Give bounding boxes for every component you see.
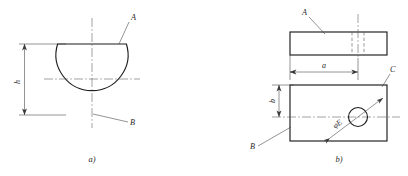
label-b-right: B bbox=[250, 142, 255, 151]
label-b-left: B bbox=[130, 118, 135, 127]
leader-line-a-left bbox=[119, 22, 129, 44]
technical-drawing-figure: h A B a) A bbox=[0, 0, 408, 176]
top-view-rectangle bbox=[290, 32, 387, 55]
caption-b: b) bbox=[335, 154, 342, 164]
subfigure-b: A a b C B φE b) bbox=[250, 8, 400, 164]
drawing-canvas: h A B a) A bbox=[0, 0, 408, 176]
leader-line-b-right bbox=[258, 127, 291, 146]
label-a-right: A bbox=[301, 8, 308, 17]
label-hole-diameter: φE bbox=[331, 118, 344, 131]
dimension-label-a: a bbox=[322, 61, 326, 70]
subfigure-a: h A B a) bbox=[13, 13, 140, 164]
label-a-left: A bbox=[130, 13, 137, 22]
front-view-rectangle bbox=[290, 85, 387, 141]
dimension-label-b: b bbox=[268, 99, 277, 103]
label-c: C bbox=[390, 65, 396, 74]
caption-a: a) bbox=[88, 154, 95, 164]
leader-line-b-left bbox=[93, 114, 128, 122]
dimension-label-h: h bbox=[13, 80, 22, 84]
